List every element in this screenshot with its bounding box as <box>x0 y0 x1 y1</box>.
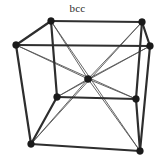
body-diagonal-line <box>51 21 140 151</box>
bcc-lattice-figure: bcc <box>0 0 155 160</box>
corner-atom <box>137 148 144 155</box>
cube-edge-line <box>57 97 136 99</box>
center-to-corner-line <box>88 22 142 79</box>
cube-edge-line <box>31 97 57 144</box>
cube-edge-line <box>136 22 142 99</box>
cube-edge-line <box>51 21 142 22</box>
bcc-unit-cell-drawing <box>0 0 155 160</box>
atoms-group <box>13 18 154 155</box>
corner-atom <box>54 94 61 101</box>
center-to-corner-line <box>57 79 88 97</box>
cube-edge-line <box>16 45 150 46</box>
cube-edge-line <box>136 99 140 151</box>
body-center-atom <box>84 75 91 82</box>
corner-atom <box>147 43 154 50</box>
cube-edges-group <box>16 21 150 151</box>
corner-atom <box>139 19 146 26</box>
body-diagonals-group <box>16 21 150 151</box>
cube-edge-line <box>51 21 57 97</box>
cube-edge-line <box>140 46 150 151</box>
cube-edge-line <box>31 144 140 151</box>
corner-atom <box>133 96 140 103</box>
corner-atom <box>13 42 20 49</box>
center-to-corner-line <box>31 79 88 144</box>
corner-atom <box>48 18 55 25</box>
body-diagonal-line <box>31 22 142 144</box>
corner-atom <box>28 141 35 148</box>
cube-edge-line <box>16 45 31 144</box>
cube-edge-line <box>142 22 150 46</box>
cube-edge-line <box>16 21 51 45</box>
